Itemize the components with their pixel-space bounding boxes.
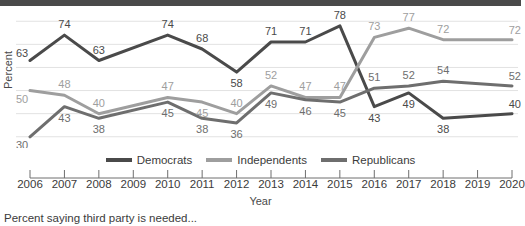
data-label: 38 <box>437 123 449 135</box>
data-label: 47 <box>299 80 311 92</box>
x-tick-label: 2007 <box>52 178 78 190</box>
data-label: 47 <box>162 80 174 92</box>
x-tick-label: 2009 <box>120 178 146 190</box>
data-label: 72 <box>437 23 449 35</box>
x-tick-label: 2018 <box>430 178 456 190</box>
data-label: 45 <box>196 107 208 119</box>
x-tick-label: 2013 <box>258 178 284 190</box>
figure-caption: Percent saying third party is needed... <box>4 212 197 224</box>
data-label: 38 <box>196 123 208 135</box>
data-label: 68 <box>196 32 208 44</box>
data-label: 74 <box>162 18 174 30</box>
legend-swatch-icon <box>106 158 132 162</box>
x-tick-label: 2014 <box>293 178 319 190</box>
data-label: 48 <box>58 78 70 90</box>
data-label: 47 <box>334 80 346 92</box>
data-label: 40 <box>93 97 105 109</box>
data-label: 40 <box>509 98 521 110</box>
data-label: 46 <box>299 105 311 117</box>
x-axis-tick-labels: 2006200720082009201020112012201320142015… <box>0 178 521 194</box>
data-label: 45 <box>162 107 174 119</box>
data-label: 52 <box>265 69 277 81</box>
data-label: 45 <box>334 107 346 119</box>
x-tick-label: 2012 <box>224 178 250 190</box>
data-label: 54 <box>437 64 449 76</box>
data-label: 30 <box>16 139 28 148</box>
legend-swatch-icon <box>321 158 347 162</box>
data-label: 71 <box>299 25 311 37</box>
data-label: 73 <box>368 20 380 32</box>
x-tick-label: 2016 <box>361 178 387 190</box>
legend-label: Republicans <box>352 154 415 166</box>
plot-area: 6374637468587171784349384050484047454052… <box>0 6 521 148</box>
x-tick-label: 2006 <box>17 178 43 190</box>
x-tick-label: 2015 <box>327 178 353 190</box>
chart-figure: 6374637468587171784349384050484047454052… <box>0 6 521 226</box>
x-tick-label: 2020 <box>499 178 525 190</box>
x-tick-label: 2019 <box>465 178 491 190</box>
line-chart-svg: 6374637468587171784349384050484047454052… <box>0 6 521 148</box>
x-tick-label: 2011 <box>190 178 215 190</box>
data-label: 40 <box>230 97 242 109</box>
data-label: 49 <box>265 98 277 110</box>
data-label: 63 <box>16 47 28 59</box>
data-label: 74 <box>58 18 70 30</box>
data-label: 38 <box>93 123 105 135</box>
data-label: 58 <box>230 77 242 89</box>
legend-item-republicans[interactable]: Republicans <box>321 154 415 166</box>
data-label: 71 <box>265 25 277 37</box>
legend-item-democrats[interactable]: Democrats <box>106 154 193 166</box>
data-label: 52 <box>509 70 521 82</box>
y-axis-title: Percent <box>2 40 14 100</box>
data-label: 77 <box>403 11 415 23</box>
data-label: 43 <box>368 112 380 124</box>
x-tick-label: 2008 <box>86 178 112 190</box>
legend-label: Independents <box>237 154 307 166</box>
data-label: 63 <box>93 44 105 56</box>
data-label: 72 <box>509 24 521 36</box>
data-label: 52 <box>403 69 415 81</box>
x-axis-title: Year <box>0 195 521 207</box>
data-label: 36 <box>230 128 242 140</box>
legend-swatch-icon <box>206 158 232 162</box>
legend-label: Democrats <box>137 154 193 166</box>
legend-item-independents[interactable]: Independents <box>206 154 307 166</box>
data-label: 43 <box>58 112 70 124</box>
data-label: 78 <box>334 9 346 21</box>
chart-legend: DemocratsIndependentsRepublicans <box>0 152 521 168</box>
data-label: 51 <box>368 71 380 83</box>
data-label: 49 <box>403 98 415 110</box>
x-tick-label: 2017 <box>396 178 422 190</box>
x-tick-label: 2010 <box>155 178 181 190</box>
data-label: 50 <box>16 93 28 105</box>
